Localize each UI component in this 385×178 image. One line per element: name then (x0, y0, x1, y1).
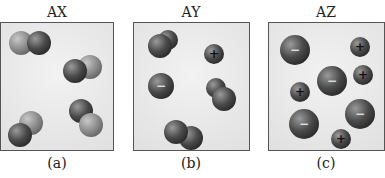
molecule-atom (63, 59, 87, 83)
anion: − (280, 35, 310, 65)
panel-title-ay: AY (151, 4, 231, 20)
anion: − (345, 99, 375, 129)
cation: + (331, 129, 351, 149)
panel-label-c: (c) (306, 155, 346, 171)
anion: − (289, 109, 319, 139)
molecule-atom (164, 120, 188, 144)
plus-symbol: + (355, 40, 365, 54)
panel-az: − + − + + − − + (268, 22, 385, 151)
plus-symbol: + (209, 47, 219, 61)
panel-ax (0, 22, 114, 151)
minus-symbol: − (327, 74, 337, 88)
minus-symbol: − (156, 79, 166, 93)
minus-symbol: − (290, 43, 300, 57)
minus-symbol: − (355, 107, 365, 121)
cation: + (204, 44, 224, 64)
molecule-atom (148, 34, 172, 58)
anion: − (148, 73, 174, 99)
anion: − (317, 66, 347, 96)
molecule-atom (27, 31, 51, 55)
plus-symbol: + (358, 68, 368, 82)
molecule-atom (79, 113, 103, 137)
panel-label-a: (a) (37, 155, 77, 171)
minus-symbol: − (299, 117, 309, 131)
panel-title-az: AZ (286, 4, 366, 20)
panel-ay: + − (133, 22, 250, 151)
cation: + (350, 37, 370, 57)
plus-symbol: + (336, 132, 346, 146)
cation: + (290, 82, 310, 102)
panel-label-b: (b) (171, 155, 211, 171)
molecule-atom (8, 123, 32, 147)
plus-symbol: + (295, 85, 305, 99)
molecule-atom (212, 87, 236, 111)
cation: + (353, 65, 373, 85)
panel-title-ax: AX (17, 4, 97, 20)
